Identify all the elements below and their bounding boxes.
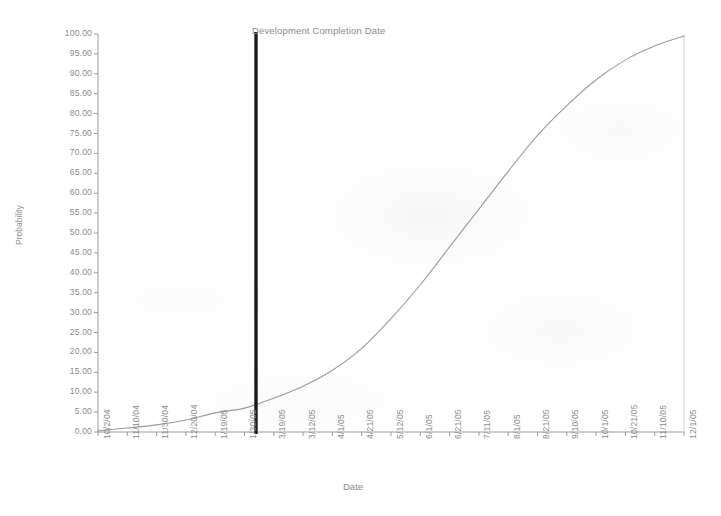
- y-tick-label: 0.00: [42, 426, 92, 436]
- y-tick-label: 40.00: [42, 267, 92, 277]
- x-tick-label: 4/21/05: [365, 409, 375, 439]
- y-axis-title: Probability: [14, 205, 24, 245]
- y-tick-label: 70.00: [42, 147, 92, 157]
- y-tick-label: 85.00: [42, 88, 92, 98]
- y-tick-label: 80.00: [42, 108, 92, 118]
- development-completion-date-label: Development Completion Date: [252, 25, 385, 36]
- x-tick-label: 1/19/05: [219, 409, 229, 439]
- y-tick-label: 30.00: [42, 307, 92, 317]
- y-tick-label: 95.00: [42, 48, 92, 58]
- x-tick-label: 11/30/04: [160, 405, 170, 439]
- y-tick-label: 55.00: [42, 207, 92, 217]
- x-tick-label: 10/1/05: [600, 409, 610, 439]
- probability-s-curve-chart: 0.005.0010.0015.0020.0025.0030.0035.0040…: [0, 0, 721, 516]
- x-tick-label: 11/10/04: [131, 405, 141, 439]
- y-tick-label: 45.00: [42, 247, 92, 257]
- y-tick-label: 25.00: [42, 327, 92, 337]
- x-tick-label: 10/21/05: [629, 404, 639, 439]
- y-tick-label: 65.00: [42, 167, 92, 177]
- x-tick-label: 7/11/05: [482, 410, 492, 439]
- x-tick-label: 11/10/05: [658, 405, 668, 439]
- y-tick-label: 90.00: [42, 68, 92, 78]
- x-tick-marks: [98, 432, 684, 436]
- x-tick-label: 5/12/05: [395, 409, 405, 439]
- y-tick-label: 50.00: [42, 227, 92, 237]
- y-tick-label: 100.00: [42, 28, 92, 38]
- x-tick-label: 12/20/04: [189, 404, 199, 439]
- x-tick-label: 1/30/05: [248, 409, 258, 439]
- y-tick-label: 10.00: [42, 386, 92, 396]
- x-axis-title: Date: [343, 481, 363, 492]
- cumulative-probability-curve: [98, 36, 684, 431]
- x-tick-label: 10/2/04: [102, 409, 112, 439]
- x-tick-label: 3/12/05: [307, 409, 317, 439]
- y-tick-label: 20.00: [42, 346, 92, 356]
- y-tick-label: 35.00: [42, 287, 92, 297]
- x-tick-label: 3/19/05: [277, 409, 287, 439]
- x-tick-label: 6/21/05: [453, 409, 463, 439]
- x-tick-label: 9/10/05: [570, 409, 580, 439]
- y-tick-marks: [94, 34, 98, 432]
- x-tick-label: 8/21/05: [541, 409, 551, 439]
- x-tick-label: 4/1/05: [336, 414, 346, 439]
- y-tick-label: 60.00: [42, 187, 92, 197]
- y-tick-label: 5.00: [42, 406, 92, 416]
- x-tick-label: 8/1/05: [512, 414, 522, 439]
- x-tick-label: 6/1/05: [424, 414, 434, 439]
- y-tick-label: 15.00: [42, 366, 92, 376]
- x-tick-label: 12/1/05: [688, 409, 698, 439]
- y-tick-label: 75.00: [42, 128, 92, 138]
